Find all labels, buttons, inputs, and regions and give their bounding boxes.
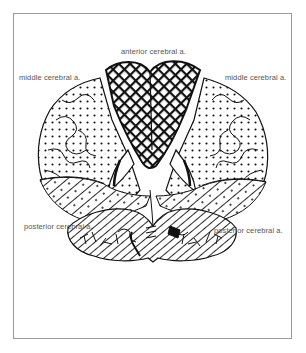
label-anterior-cerebral-artery: anterior cerebral a.	[121, 47, 186, 56]
label-middle-cerebral-artery-left: middle cerebral a.	[19, 73, 80, 82]
label-middle-cerebral-artery-right: middle cerebral a.	[225, 73, 286, 82]
label-posterior-cerebral-artery-right: posterior cerebral a.	[214, 226, 283, 235]
label-posterior-cerebral-artery-left: posterior cerebral a.	[24, 222, 93, 231]
midline-icon	[150, 190, 153, 226]
posterior-cerebral-territory-upper	[40, 177, 266, 221]
